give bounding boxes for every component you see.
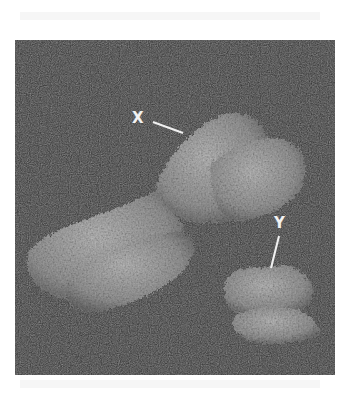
micrograph-frame: X Y — [15, 40, 335, 375]
faint-bottom-margin — [20, 380, 320, 388]
faint-top-margin — [20, 12, 320, 20]
x-chromosome-label: X — [132, 111, 144, 126]
micrograph-image — [15, 40, 335, 375]
y-chromosome-label: Y — [274, 216, 285, 231]
y-chromosome — [225, 266, 320, 343]
